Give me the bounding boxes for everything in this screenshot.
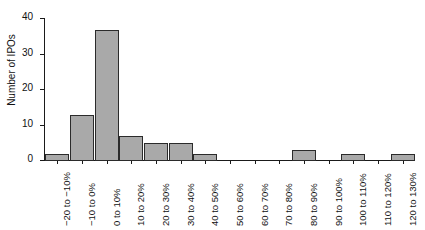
x-tick-label: 120 to 130% bbox=[407, 173, 418, 226]
plot-area: 010203040 bbox=[44, 18, 414, 162]
y-tick-label: 40 bbox=[5, 11, 33, 22]
y-tick: 20 bbox=[40, 89, 45, 90]
bar bbox=[95, 30, 119, 161]
bar bbox=[144, 143, 168, 161]
bar bbox=[292, 150, 316, 161]
bar bbox=[45, 154, 69, 161]
y-tick: 40 bbox=[40, 18, 45, 19]
x-tick-label: 0 to 10% bbox=[111, 189, 122, 227]
bar bbox=[391, 154, 415, 161]
x-tick-label: 80 to 90% bbox=[308, 183, 319, 226]
y-tick: 0 bbox=[40, 160, 45, 161]
y-tick: 30 bbox=[40, 54, 45, 55]
x-tick-label: 40 to 50% bbox=[209, 183, 220, 226]
x-tick-label: 70 to 80% bbox=[283, 183, 294, 226]
chart-figure: Number of IPOs 010203040 −20 to −10%−10 … bbox=[0, 0, 425, 230]
x-tick-label: 50 to 60% bbox=[234, 183, 245, 226]
y-tick: 10 bbox=[40, 125, 45, 126]
x-tick-label: 20 to 30% bbox=[160, 183, 171, 226]
x-tick-label: 90 to 100% bbox=[333, 178, 344, 226]
bar bbox=[193, 154, 217, 161]
x-tick-label: −10 to 0% bbox=[86, 183, 97, 226]
bar bbox=[341, 154, 365, 161]
x-tick-label: 10 to 20% bbox=[135, 183, 146, 226]
x-tick-label: 110 to 120% bbox=[382, 173, 393, 226]
x-tick-label: 30 to 40% bbox=[185, 183, 196, 226]
x-axis-labels: −20 to −10%−10 to 0%0 to 10%10 to 20%20 … bbox=[44, 164, 414, 228]
y-tick-label: 10 bbox=[5, 118, 33, 129]
y-tick-label: 0 bbox=[5, 153, 33, 164]
bar bbox=[119, 136, 143, 161]
y-tick-label: 30 bbox=[5, 47, 33, 58]
y-tick-label: 20 bbox=[5, 82, 33, 93]
bar bbox=[70, 115, 94, 161]
x-tick-label: −20 to −10% bbox=[61, 172, 72, 226]
bar bbox=[169, 143, 193, 161]
x-tick-label: 100 to 110% bbox=[357, 173, 368, 226]
x-tick-label: 60 to 70% bbox=[259, 183, 270, 226]
